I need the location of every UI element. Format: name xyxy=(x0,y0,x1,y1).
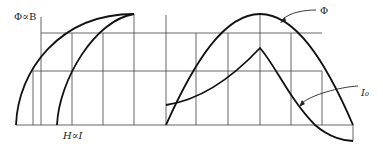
current-leader-line xyxy=(301,86,358,104)
left-panel-grid xyxy=(16,14,160,125)
magnetization-curve-rising xyxy=(16,14,134,125)
flux-leader-line xyxy=(282,10,316,20)
diagram-canvas: Φ∝B H∝I Φ I₀ xyxy=(0,0,383,153)
y-axis-label: Φ∝B xyxy=(14,11,36,22)
current-label: I₀ xyxy=(360,87,369,98)
flux-curve xyxy=(166,14,353,125)
magnetization-curve-falling xyxy=(57,14,134,125)
no-load-current-curve xyxy=(166,48,353,141)
x-axis-label: H∝I xyxy=(62,130,83,141)
flux-label: Φ xyxy=(320,5,328,16)
